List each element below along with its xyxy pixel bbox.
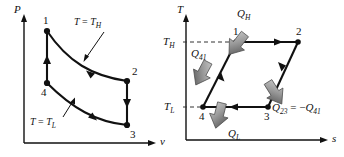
pv-process-2-3 xyxy=(123,81,131,125)
pv-leader-th xyxy=(84,32,105,62)
ts-tick-label-tl: TL xyxy=(164,101,174,115)
pv-process-3-4 xyxy=(47,83,127,125)
pv-state-label-2: 2 xyxy=(132,66,138,77)
ts-th-sub: H xyxy=(169,41,174,50)
ts-state-dot-2 xyxy=(295,39,301,45)
qh-sub: H xyxy=(245,13,250,22)
ql-q: Q xyxy=(228,127,236,139)
pv-isotherm-high-label: T = TH xyxy=(74,17,101,30)
iso-tl-eq: = xyxy=(36,116,47,127)
ts-state-label-4: 4 xyxy=(199,111,205,122)
pv-y-axis xyxy=(21,14,27,143)
iso-th-eq: = xyxy=(80,16,91,27)
ts-y-axis xyxy=(183,14,189,140)
ts-state-dot-4 xyxy=(200,104,206,110)
q41-q: Q xyxy=(191,47,199,59)
pv-x-axis xyxy=(24,140,156,146)
ts-state-label-1: 1 xyxy=(233,26,239,37)
pv-state-label-4: 4 xyxy=(41,87,47,98)
ts-state-label-3: 3 xyxy=(264,111,270,122)
pv-state-label-3: 3 xyxy=(130,129,136,140)
figure-canvas: P v 1 2 3 4 T = TH T = TL T s TH TL 1 2 … xyxy=(0,0,344,157)
pv-x-axis-label: v xyxy=(160,136,165,147)
ts-process-3-4 xyxy=(203,104,268,111)
pv-isotherm-low-label: T = TL xyxy=(30,117,56,130)
ts-heat-out-label-ql: QL xyxy=(228,128,240,142)
ts-x-axis xyxy=(186,137,328,143)
pv-state-dot-2 xyxy=(124,78,130,84)
pv-state-dot-1 xyxy=(44,28,50,34)
ts-diagram-group xyxy=(183,14,328,143)
pv-leader-tl xyxy=(63,98,75,118)
q23-q: Q xyxy=(272,101,280,113)
ts-tick-label-th: TH xyxy=(163,36,175,50)
ts-x-axis-label: s xyxy=(332,133,336,144)
ql-sub: L xyxy=(236,133,240,142)
pv-state-label-1: 1 xyxy=(43,15,49,26)
thermodynamics-figure xyxy=(0,0,344,157)
q23-eq: = xyxy=(287,101,299,113)
iso-th-sub: H xyxy=(96,21,101,30)
pv-y-axis-label: P xyxy=(14,4,21,15)
ts-tl-sub: L xyxy=(170,106,174,115)
ts-state-dot-3 xyxy=(265,104,271,110)
ts-state-label-2: 2 xyxy=(296,26,302,37)
q41-sub: 41 xyxy=(199,53,207,62)
heat-arrow-q41 xyxy=(187,58,216,90)
ts-heat-in-label-qh: QH xyxy=(237,8,250,22)
q23-sub41: 41 xyxy=(313,107,321,116)
iso-tl-sub: L xyxy=(52,121,56,130)
ts-heat-equation-q23: Q23 = −Q41 xyxy=(272,102,321,116)
ts-heat-label-q41: Q41 xyxy=(191,48,206,62)
ts-y-axis-label: T xyxy=(177,4,183,15)
qh-q: Q xyxy=(237,7,245,19)
pv-process-4-1 xyxy=(43,31,51,83)
